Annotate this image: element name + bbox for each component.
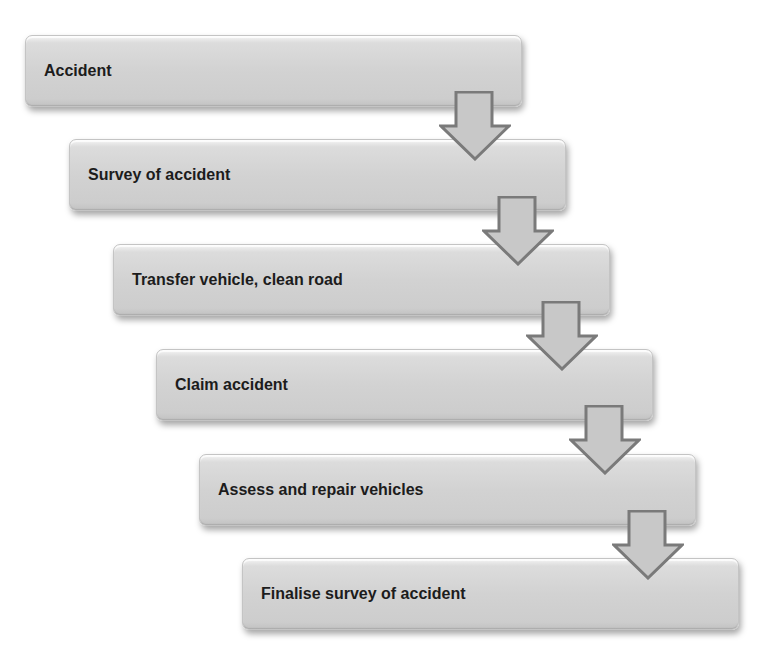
- down-arrow-icon: [612, 510, 684, 580]
- step-label: Accident: [44, 36, 112, 106]
- step-label: Survey of accident: [88, 140, 230, 210]
- step-label: Transfer vehicle, clean road: [132, 245, 343, 315]
- down-arrow-icon: [482, 196, 554, 266]
- down-arrow-icon: [569, 405, 641, 475]
- down-arrow-icon: [526, 301, 598, 371]
- step-label: Finalise survey of accident: [261, 559, 466, 629]
- down-arrow-icon: [439, 91, 511, 161]
- step-label: Assess and repair vehicles: [218, 455, 423, 525]
- step-label: Claim accident: [175, 350, 288, 420]
